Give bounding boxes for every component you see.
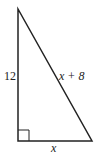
vertical-leg-label: 12 [4,69,16,83]
right-triangle-diagram: 12 x + 8 x [0,0,102,156]
hypotenuse-label: x + 8 [58,69,84,83]
horizontal-leg-label: x [50,141,57,155]
right-angle-marker [18,130,29,141]
